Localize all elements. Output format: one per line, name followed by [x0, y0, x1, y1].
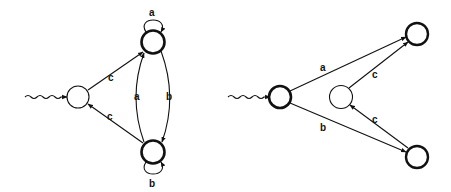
state-p2-accepting	[406, 23, 428, 45]
left-automaton: c c a b a b	[25, 7, 172, 189]
state-q2-accepting	[142, 141, 165, 164]
state-p3-accepting	[406, 146, 428, 168]
label-a-mid: a	[134, 91, 140, 102]
label-b-mid: b	[166, 91, 172, 102]
state-q1-accepting	[142, 31, 165, 54]
right-automaton: a b c c	[228, 23, 428, 168]
automata-diagram: c c a b a b a b c c	[0, 0, 451, 192]
label-a: a	[320, 62, 326, 73]
label-b: b	[320, 122, 326, 133]
label-c-up: c	[372, 69, 378, 80]
initial-arrow-left	[25, 96, 67, 99]
label-c-up: c	[108, 72, 114, 83]
edge-q0-q1-c	[88, 52, 143, 90]
label-c-down: c	[372, 114, 378, 125]
label-a-loop: a	[149, 7, 155, 18]
edge-q2-q0-c	[88, 104, 143, 143]
state-p0-accepting	[269, 86, 291, 108]
edge-p1-p2-c	[349, 42, 408, 88]
state-q0	[67, 86, 89, 108]
edge-p0-p2-a	[290, 37, 406, 91]
label-c-down: c	[107, 111, 113, 122]
edge-p3-p1-c	[350, 105, 408, 148]
label-b-loop: b	[149, 178, 155, 189]
state-p1	[330, 86, 353, 109]
initial-arrow-right	[228, 96, 270, 99]
edge-p0-p3-b	[290, 103, 406, 152]
